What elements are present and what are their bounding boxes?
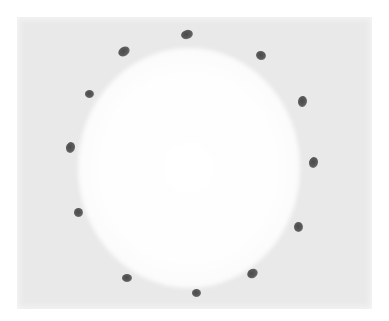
bright-center <box>78 48 300 288</box>
seed <box>192 289 201 297</box>
seed <box>294 222 303 232</box>
seed <box>85 90 94 98</box>
seed <box>74 208 83 217</box>
seed <box>122 274 132 282</box>
